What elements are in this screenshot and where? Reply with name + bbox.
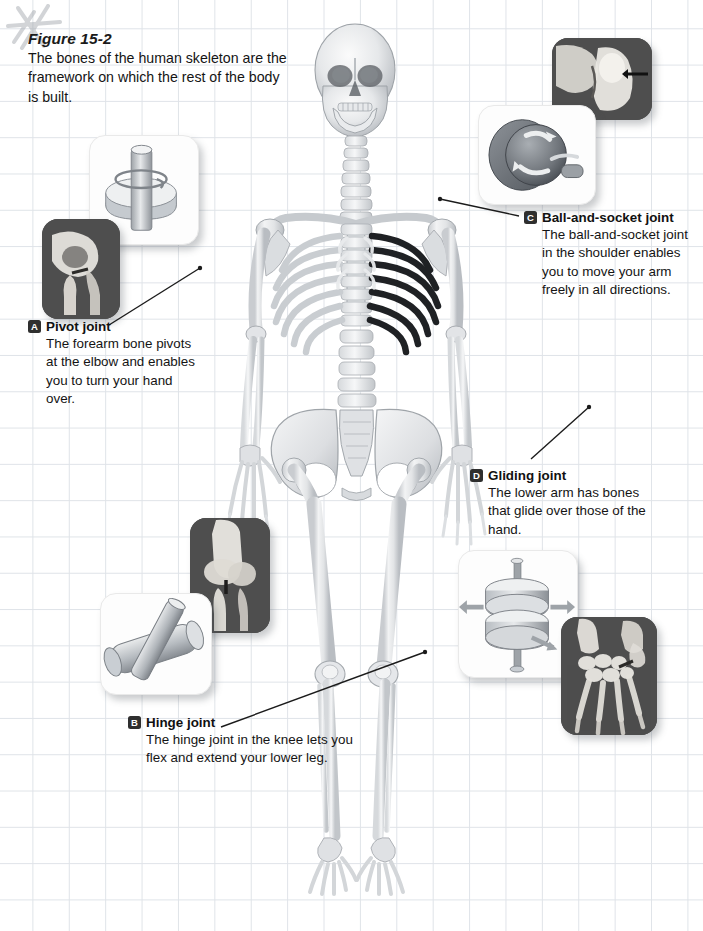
callout-d-heading: D Gliding joint xyxy=(470,467,670,484)
callout-d: D Gliding joint The lower arm has bones … xyxy=(470,467,670,539)
callout-b-badge: B xyxy=(128,716,141,729)
gliding-joint-model-panel xyxy=(458,550,578,678)
figure-page: Figure 15-2 The bones of the human skele… xyxy=(0,0,703,931)
ball-and-socket-model-panel xyxy=(478,105,596,205)
callout-a-heading: A Pivot joint xyxy=(28,318,243,335)
leader-line-a xyxy=(109,268,200,325)
leader-line-d xyxy=(531,407,589,459)
hinge-joint-model-panel xyxy=(100,593,212,695)
callout-b-heading: B Hinge joint xyxy=(128,714,378,731)
callout-d-badge: D xyxy=(470,469,483,482)
callout-a: A Pivot joint The forearm bone pivots at… xyxy=(28,318,243,409)
figure-number-label: Figure 15-2 xyxy=(28,30,290,48)
callout-c-body: The ball-and-socket joint in the shoulde… xyxy=(542,226,702,300)
callout-c-badge: C xyxy=(524,211,537,224)
callout-d-title: Gliding joint xyxy=(488,467,566,484)
callout-c: C Ball-and-socket joint The ball-and-soc… xyxy=(524,209,702,300)
callout-a-badge: A xyxy=(28,320,41,333)
elbow-bone-photo-panel xyxy=(42,219,120,319)
callout-b-title: Hinge joint xyxy=(146,714,215,731)
figure-caption: Figure 15-2 The bones of the human skele… xyxy=(28,30,290,107)
hand-bone-photo-panel xyxy=(561,617,657,735)
callout-c-title: Ball-and-socket joint xyxy=(542,209,674,226)
callout-b-body: The hinge joint in the knee lets you fle… xyxy=(146,731,362,768)
callout-a-title: Pivot joint xyxy=(46,318,111,335)
callout-d-body: The lower arm has bones that glide over … xyxy=(488,484,664,539)
figure-caption-text: The bones of the human skeleton are the … xyxy=(28,49,290,107)
callout-a-body: The forearm bone pivots at the elbow and… xyxy=(46,335,196,409)
callout-c-heading: C Ball-and-socket joint xyxy=(524,209,702,226)
callout-b: B Hinge joint The hinge joint in the kne… xyxy=(128,714,378,768)
